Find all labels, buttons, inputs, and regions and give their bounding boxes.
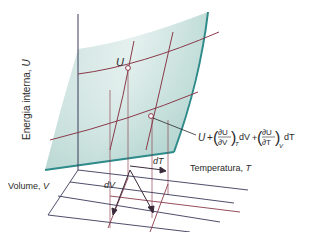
volume-axis-label: Volume, V <box>8 181 50 191</box>
svg-text:U: U <box>198 132 206 143</box>
point-u-plus-du <box>149 114 154 119</box>
svg-text:∂U: ∂U <box>218 128 228 137</box>
svg-text:dT: dT <box>284 132 295 142</box>
dv-label: dV <box>104 180 116 190</box>
total-differential-expression: U + ( ∂U ∂V ) T dV + ( ∂U ∂T ) V dT <box>198 128 295 149</box>
energy-surface <box>45 12 208 170</box>
dt-label: dT <box>153 156 165 166</box>
svg-text:∂T: ∂T <box>262 138 271 147</box>
svg-text:∂V: ∂V <box>218 138 228 147</box>
point-u-label: U <box>116 56 124 68</box>
svg-text:dV: dV <box>239 132 250 142</box>
internal-energy-surface-diagram: Energia interna, U U U + ( ∂U ∂V ) T dV … <box>0 0 312 232</box>
base-grid-maroon <box>108 178 240 232</box>
point-u <box>126 66 131 71</box>
svg-text:V: V <box>279 143 284 149</box>
temperature-axis-label: Temperatura, T <box>190 163 253 173</box>
u-axis-label: Energia interna, U <box>21 59 32 140</box>
svg-text:∂U: ∂U <box>262 128 272 137</box>
